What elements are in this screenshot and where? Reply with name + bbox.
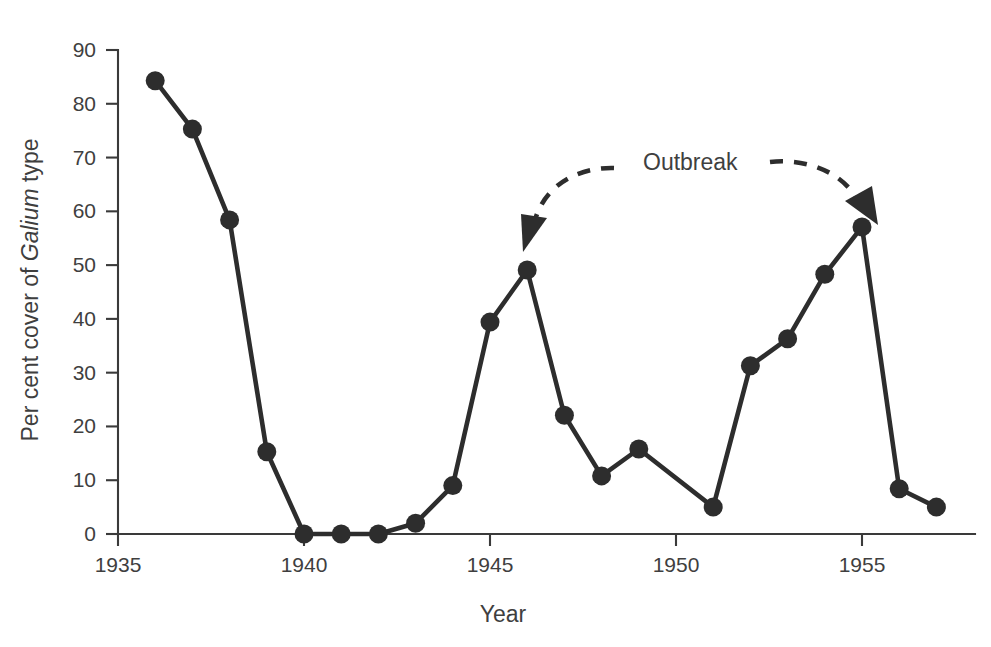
data-point-marker (853, 217, 872, 236)
x-axis-title: Year (480, 601, 527, 627)
data-point-marker (592, 466, 611, 485)
y-tick-label: 60 (73, 199, 96, 222)
line-chart-canvas: 0102030405060708090 19351940194519501955… (0, 0, 991, 647)
data-point-marker (555, 406, 574, 425)
y-tick-label: 50 (73, 253, 96, 276)
y-axis-title-segment: Galium (17, 188, 43, 261)
data-point-marker (220, 210, 239, 229)
data-point-marker (257, 442, 276, 461)
data-point-marker (890, 479, 909, 498)
annotation-arrow-right (770, 161, 878, 225)
y-axis-title-segment: Per cent cover of (17, 261, 43, 441)
data-point-marker (518, 261, 537, 280)
data-point-marker (778, 329, 797, 348)
y-tick-label: 40 (73, 307, 96, 330)
x-tick-label: 1955 (839, 553, 886, 576)
data-line-galium-cover (155, 81, 936, 534)
data-point-marker (815, 265, 834, 284)
outbreak-arrow-curve-right (770, 161, 855, 196)
chart-figure: 0102030405060708090 19351940194519501955… (0, 0, 991, 647)
y-axis-ticks: 0102030405060708090 (73, 38, 118, 545)
data-point-marker (704, 498, 723, 517)
y-tick-label: 30 (73, 361, 96, 384)
data-point-marker (629, 440, 648, 459)
data-point-marker (183, 120, 202, 139)
data-point-marker (332, 525, 351, 544)
x-axis-ticks: 19351940194519501955 (95, 534, 886, 576)
outbreak-arrow-curve-left (535, 168, 614, 220)
y-axis-title: Per cent cover of Galium type (17, 139, 43, 442)
y-tick-label: 70 (73, 146, 96, 169)
data-point-marker (741, 356, 760, 375)
data-point-marker (443, 476, 462, 495)
outbreak-annotation-label: Outbreak (643, 149, 738, 175)
x-tick-label: 1940 (281, 553, 328, 576)
annotation-arrow-left (521, 168, 614, 252)
data-point-marker (927, 498, 946, 517)
data-point-marker (146, 71, 165, 90)
data-point-marker (406, 514, 425, 533)
y-tick-label: 10 (73, 468, 96, 491)
data-point-marker (295, 525, 314, 544)
y-tick-label: 80 (73, 92, 96, 115)
x-tick-label: 1950 (653, 553, 700, 576)
y-tick-label: 0 (84, 522, 96, 545)
data-point-marker (369, 525, 388, 544)
x-tick-label: 1945 (467, 553, 514, 576)
x-tick-label: 1935 (95, 553, 142, 576)
outbreak-arrow-head-left (521, 214, 547, 252)
data-point-marker (481, 313, 500, 332)
y-tick-label: 20 (73, 414, 96, 437)
y-tick-label: 90 (73, 38, 96, 61)
data-point-markers (146, 71, 946, 543)
y-axis-title-segment: type (17, 139, 43, 189)
